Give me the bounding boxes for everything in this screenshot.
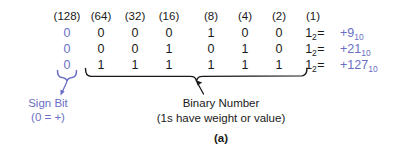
figure-label: (a)	[118, 131, 324, 145]
row-0-bit-8: 1	[194, 25, 228, 41]
weight-64: (64)	[84, 9, 118, 24]
row-0-bit-16: 0	[152, 25, 186, 41]
row-1-sign-bit: 0	[50, 41, 84, 57]
row-1-bit-2: 0	[262, 41, 296, 57]
row-1-decimal-result: +2110	[340, 41, 402, 58]
binary-number-annotation-title: Binary Number	[118, 96, 324, 111]
row-2-decimal-subscript: 10	[368, 64, 377, 74]
row-1-bit-64: 0	[84, 41, 118, 57]
row-0-bit-4: 0	[228, 25, 262, 41]
row-1-bit-8: 0	[194, 41, 228, 57]
row-2-decimal-value: 127	[347, 58, 368, 72]
weight-8: (8)	[194, 9, 228, 24]
row-1-decimal-value: 21	[347, 42, 361, 56]
row-2-bit-8: 1	[194, 57, 228, 73]
row-1-bit-32: 0	[118, 41, 152, 57]
binary-number-annotation-detail: (1s have weight or value)	[118, 111, 324, 126]
sign-bit-annotation-title: Sign Bit	[2, 96, 94, 110]
row-0-bit-32: 0	[118, 25, 152, 41]
row-2-bit-16: 1	[152, 57, 186, 73]
row-2-decimal-result: +12710	[340, 57, 402, 74]
arrow-pointer-icon	[60, 82, 66, 96]
row-2-bit-32: 1	[118, 57, 152, 73]
row-0-bit-64: 0	[84, 25, 118, 41]
row-2-equals-sign: =	[311, 57, 331, 73]
row-0-equals-sign: =	[311, 25, 331, 41]
row-2-bit-64: 1	[84, 57, 118, 73]
weight-32: (32)	[118, 9, 152, 24]
weight-16: (16)	[152, 9, 186, 24]
sign-bit-annotation: Sign Bit (0 = +)	[2, 96, 94, 124]
row-1-equals-sign: =	[311, 41, 331, 57]
row-2-bit-4: 1	[228, 57, 262, 73]
weight-header-row: (128) (64) (32) (16) (8) (4) (2) (1)	[0, 9, 405, 24]
weight-1: (1)	[296, 9, 330, 24]
row-1-decimal-subscript: 10	[361, 48, 370, 58]
sign-bit-annotation-detail: (0 = +)	[2, 110, 94, 124]
row-0-decimal-subscript: 10	[354, 32, 363, 42]
binary-row: 0 1 1 1 1 1 1 12 = +12710	[0, 57, 405, 73]
signed-binary-figure: (128) (64) (32) (16) (8) (4) (2) (1) 0 0…	[0, 0, 405, 156]
weight-4: (4)	[228, 9, 262, 24]
row-2-bit-2: 1	[262, 57, 296, 73]
row-1-bit-4: 1	[228, 41, 262, 57]
row-0-sign-bit: 0	[50, 25, 84, 41]
row-0-bit-2: 0	[262, 25, 296, 41]
weight-sign-128: (128)	[50, 9, 84, 24]
row-2-sign-bit: 0	[50, 57, 84, 73]
binary-row: 0 0 0 1 0 1 0 12 = +2110	[0, 41, 405, 57]
row-0-decimal-result: +910	[340, 25, 402, 42]
row-1-bit-16: 1	[152, 41, 186, 57]
binary-number-annotation: Binary Number (1s have weight or value)	[118, 96, 324, 125]
arrow-pointer-icon	[196, 80, 204, 94]
binary-row: 0 0 0 0 1 0 0 12 = +910	[0, 25, 405, 41]
weight-2: (2)	[262, 9, 296, 24]
